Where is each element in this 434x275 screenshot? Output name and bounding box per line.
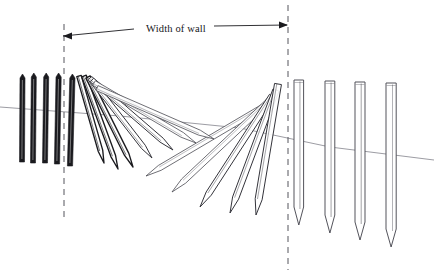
width-of-wall-label: Width of wall bbox=[146, 23, 206, 34]
stake-wall-diagram: Width of wall bbox=[0, 0, 434, 275]
figure-container: Width of wall bbox=[0, 0, 434, 275]
standing-stake-right-3 bbox=[386, 83, 396, 247]
standing-stake-right-0 bbox=[294, 80, 304, 225]
stake-highlight-0 bbox=[22, 80, 23, 159]
standing-stake-right-2 bbox=[355, 82, 365, 240]
standing-stake-right-1 bbox=[325, 81, 335, 233]
